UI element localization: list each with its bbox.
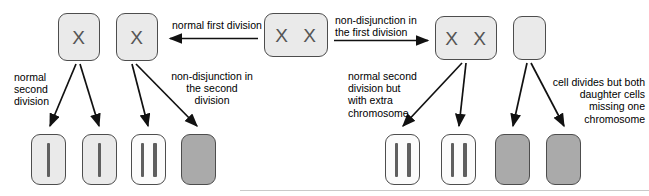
chromosome-bar [463, 143, 467, 177]
cell-gamete-6 [441, 134, 476, 185]
label-normal-first-division: normal first division [172, 19, 292, 31]
chromosome-bar [98, 143, 102, 177]
cell-gamete-3 [131, 134, 166, 185]
cell-gamete-4 [181, 134, 216, 185]
cell-gamete-8 [546, 134, 581, 185]
arrow-haploid-b-to-gamete-3 [132, 64, 148, 126]
chromosome-bar [407, 143, 411, 177]
cell-nullisomic-cell [513, 16, 546, 60]
bottom-divider [240, 190, 649, 191]
chromosome-group [451, 143, 467, 177]
cell-left-haploid-a: X [58, 13, 100, 61]
label-nondisjunction-second-division: non-disjunction in the second division [158, 70, 266, 107]
cell-content-label: X [126, 28, 148, 47]
chromosome-group [47, 143, 51, 177]
chromosome-group [395, 143, 411, 177]
label-nondisjunction-first-division: non-disjunction in the first division [335, 14, 451, 38]
label-normal-second-extra-chromosome: normal second division but with extra ch… [348, 70, 438, 119]
cell-gamete-2 [82, 134, 117, 185]
cell-gamete-5 [385, 134, 420, 185]
chromosome-bar [141, 143, 145, 177]
chromosome-bar [395, 143, 399, 177]
cell-gamete-7 [495, 134, 530, 185]
chromosome-group [141, 143, 157, 177]
cell-content-label: X [68, 28, 90, 47]
chromosome-bar [153, 143, 157, 177]
arrow-disomic-to-gamete-6 [459, 63, 466, 126]
chromosome-bar [47, 143, 51, 177]
arrow-haploid-a-to-gamete-2 [80, 64, 99, 126]
cell-gamete-1 [31, 134, 66, 185]
cell-left-haploid-b: X [116, 13, 158, 61]
label-daughter-cells-missing-chromosome: cell divides but both daughter cells mis… [525, 76, 645, 125]
diagram-canvas: X X X X X X [0, 0, 649, 196]
chromosome-group [98, 143, 102, 177]
chromosome-bar [451, 143, 455, 177]
label-normal-second-division: normal second division [14, 71, 74, 108]
